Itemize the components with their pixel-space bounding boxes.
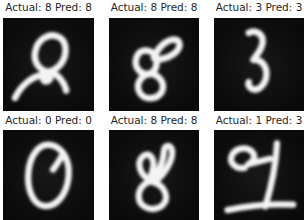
cell-title-5: Actual: 8 Pred: 8 [109, 114, 199, 127]
cell-title-1: Actual: 8 Pred: 8 [3, 1, 94, 14]
digit-glyph [214, 130, 304, 220]
digit-glyph [214, 18, 304, 111]
cell-title-2: Actual: 8 Pred: 8 [109, 1, 199, 14]
digit-image-3 [214, 18, 304, 111]
digit-image-4 [3, 130, 94, 220]
digit-glyph [3, 130, 94, 220]
digit-glyph [109, 18, 199, 111]
digit-image-1 [3, 18, 94, 111]
digit-glyph [3, 18, 94, 111]
cell-title-6: Actual: 1 Pred: 3 [214, 114, 304, 127]
cell-title-3: Actual: 3 Pred: 3 [214, 1, 304, 14]
cell-title-4: Actual: 0 Pred: 0 [3, 114, 94, 127]
digit-image-5 [109, 130, 199, 220]
digit-image-6 [214, 130, 304, 220]
digit-glyph [109, 130, 199, 220]
figure-canvas: Actual: 8 Pred: 8 Actual: 8 Pred: 8 Actu… [0, 0, 304, 220]
digit-image-2 [109, 18, 199, 111]
